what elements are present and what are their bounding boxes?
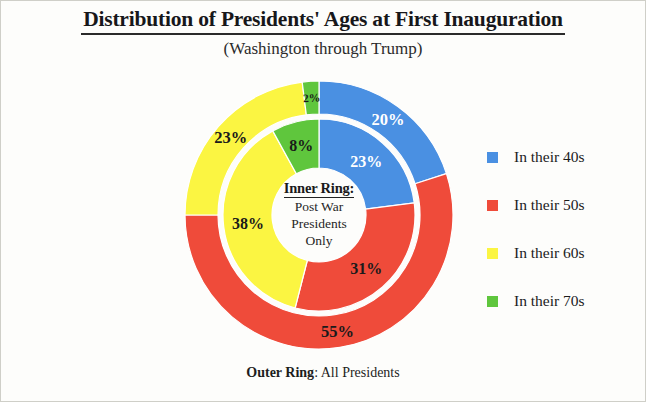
slice-percent-label: 31% <box>350 260 382 277</box>
legend: In their 40sIn their 50sIn their 60sIn t… <box>487 133 639 325</box>
slice-percent-label: 8% <box>289 137 313 154</box>
slice-percent-label: 23% <box>350 153 382 170</box>
legend-swatch-icon <box>487 152 498 163</box>
double-donut-chart: 20%55%23%2%23%31%38%8% <box>185 73 455 359</box>
footer-label: Outer Ring <box>246 365 314 380</box>
legend-item[interactable]: In their 60s <box>487 229 639 277</box>
slice-percent-label: 2% <box>303 91 321 104</box>
legend-label: In their 70s <box>514 292 585 310</box>
legend-swatch-icon <box>487 248 498 259</box>
chart-page: Distribution of Presidents' Ages at Firs… <box>0 0 646 402</box>
slice-percent-label: 23% <box>214 128 247 147</box>
title-block: Distribution of Presidents' Ages at Firs… <box>1 7 645 58</box>
legend-swatch-icon <box>487 296 498 307</box>
legend-swatch-icon <box>487 200 498 211</box>
slice-percent-label: 20% <box>372 110 405 129</box>
legend-item[interactable]: In their 50s <box>487 181 639 229</box>
footer-text: : All Presidents <box>314 365 400 380</box>
slice-percent-label: 38% <box>232 215 264 232</box>
legend-label: In their 50s <box>514 196 585 214</box>
page-title: Distribution of Presidents' Ages at Firs… <box>81 7 565 35</box>
legend-item[interactable]: In their 40s <box>487 133 639 181</box>
chart-subtitle: (Washington through Trump) <box>1 40 645 59</box>
legend-label: In their 60s <box>514 244 585 262</box>
slice-percent-label: 55% <box>321 322 354 341</box>
legend-label: In their 40s <box>514 148 585 166</box>
outer-ring-caption: Outer Ring: All Presidents <box>1 365 645 381</box>
donut-svg: 20%55%23%2%23%31%38%8% <box>185 73 455 359</box>
legend-item[interactable]: In their 70s <box>487 277 639 325</box>
